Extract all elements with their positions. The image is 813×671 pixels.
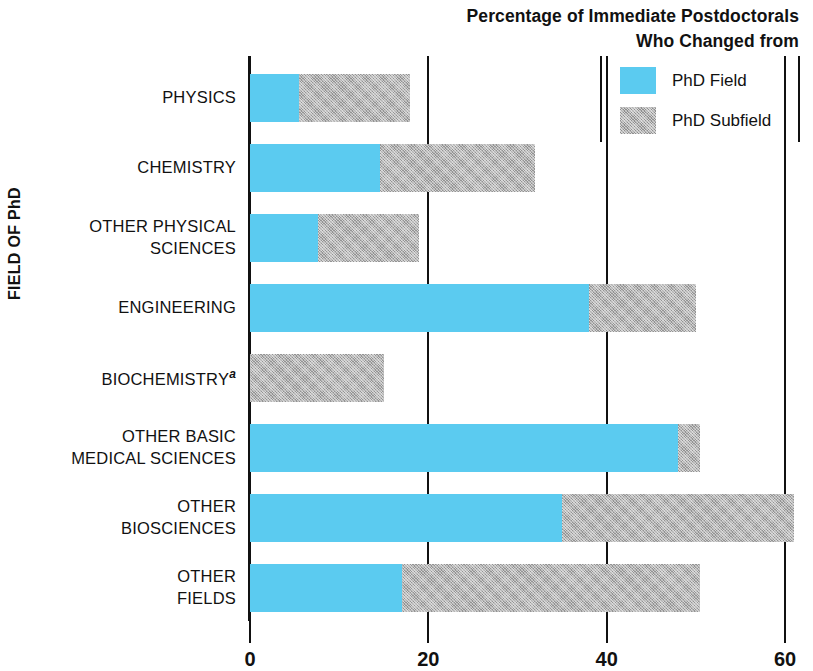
bar-row: [250, 214, 419, 262]
bar-row: [250, 284, 696, 332]
x-tick-mark-60: [784, 621, 786, 643]
category-label-line: FIELDS: [6, 588, 236, 610]
category-label-line: ENGINEERING: [6, 297, 236, 319]
x-tick-label-60: 60: [774, 648, 796, 671]
bar-segment-phd-field: [250, 424, 678, 472]
category-label-line: OTHER: [6, 566, 236, 588]
bar-row: [250, 424, 700, 472]
category-label-line: PHYSICS: [6, 87, 236, 109]
x-tick-label-20: 20: [417, 648, 439, 671]
x-tick-mark-0: [249, 621, 251, 643]
plot-area: 0204060: [250, 56, 785, 621]
category-label-line: OTHER BASIC: [6, 426, 236, 448]
bar-segment-phd-field: [250, 74, 299, 122]
category-label-line: SCIENCES: [6, 238, 236, 260]
category-label: OTHERBIOSCIENCES: [6, 496, 236, 540]
category-label: OTHERFIELDS: [6, 566, 236, 610]
bar-segment-phd-subfield: [380, 144, 535, 192]
bar-chart: Percentage of Immediate Postdoctorals Wh…: [0, 0, 813, 671]
bar-segment-phd-subfield: [562, 494, 794, 542]
bar-segment-phd-field: [250, 564, 402, 612]
bar-segment-phd-field: [250, 214, 318, 262]
bar-row: [250, 564, 700, 612]
category-label-line: BIOSCIENCES: [6, 518, 236, 540]
bar-segment-phd-field: [250, 144, 380, 192]
category-label: OTHER BASICMEDICAL SCIENCES: [6, 426, 236, 470]
x-tick-mark-40: [606, 621, 608, 643]
bar-segment-phd-subfield: [250, 354, 384, 402]
bar-row: [250, 144, 535, 192]
bar-row: [250, 74, 411, 122]
x-tick-label-40: 40: [596, 648, 618, 671]
chart-title-line-1: Percentage of Immediate Postdoctorals: [379, 4, 799, 29]
bar-segment-phd-subfield: [589, 284, 696, 332]
bar-segment-phd-field: [250, 494, 562, 542]
category-label-line: OTHER PHYSICAL: [6, 216, 236, 238]
category-label-line: CHEMISTRY: [6, 157, 236, 179]
footnote-marker: a: [229, 367, 236, 381]
chart-title: Percentage of Immediate Postdoctorals Wh…: [379, 4, 799, 54]
bar-segment-phd-field: [250, 284, 589, 332]
category-label-line: BIOCHEMISTRYa: [6, 367, 236, 390]
category-label: CHEMISTRY: [6, 157, 236, 179]
bar-row: [250, 494, 794, 542]
bar-segment-phd-subfield: [299, 74, 410, 122]
bar-row: [250, 354, 384, 402]
category-label: OTHER PHYSICALSCIENCES: [6, 216, 236, 260]
category-label: ENGINEERING: [6, 297, 236, 319]
chart-title-line-2: Who Changed from: [379, 29, 799, 54]
category-label-line: MEDICAL SCIENCES: [6, 448, 236, 470]
category-label: BIOCHEMISTRYa: [6, 367, 236, 390]
x-tick-label-0: 0: [244, 648, 255, 671]
bar-segment-phd-subfield: [318, 214, 420, 262]
bar-segment-phd-subfield: [402, 564, 701, 612]
category-label: PHYSICS: [6, 87, 236, 109]
x-tick-mark-20: [427, 621, 429, 643]
bar-segment-phd-subfield: [678, 424, 700, 472]
category-label-line: OTHER: [6, 496, 236, 518]
